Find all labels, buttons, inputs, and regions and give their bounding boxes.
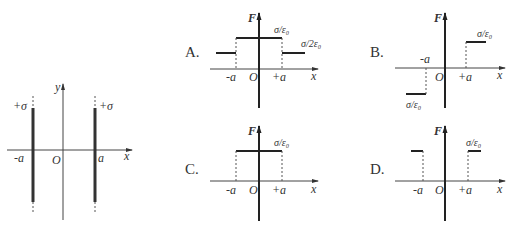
- option-c-x-label: x: [310, 182, 317, 196]
- option-b-f-label: F: [433, 11, 442, 25]
- option-b-x-label: x: [496, 68, 503, 82]
- option-b-label-1: σ/ε₀: [477, 28, 493, 39]
- option-a-label-1: σ/ε₀: [274, 24, 290, 35]
- setup-y-label: y: [54, 80, 61, 94]
- left-plate-charge-label: +σ: [13, 99, 28, 113]
- option-d-origin: O: [435, 183, 444, 197]
- option-d-letter: D.: [370, 161, 385, 177]
- option-b-pos-tick: +a: [458, 70, 472, 84]
- option-b-origin: O: [435, 70, 444, 84]
- option-a-neg-tick: -a: [226, 70, 236, 84]
- option-c-label-1: σ/ε₀: [274, 137, 290, 148]
- option-b-label-2: σ/ε₀: [406, 99, 422, 110]
- left-plate-pos-label: -a: [14, 151, 24, 165]
- option-a-label-2: σ/2ε₀: [301, 38, 322, 49]
- option-d-graph: D. F σ/ε₀ -a O +a x: [370, 124, 505, 221]
- option-d-label-1: σ/ε₀: [466, 137, 482, 148]
- option-c-f-label: F: [247, 124, 256, 138]
- option-c-origin: O: [249, 183, 258, 197]
- option-d-f-label: F: [433, 124, 442, 138]
- option-b-graph: B. F σ/ε₀ σ/ε₀ -a O +a x: [370, 11, 505, 110]
- option-d-x-label: x: [496, 182, 503, 196]
- setup-x-label: x: [123, 149, 130, 163]
- option-a-f-label: F: [247, 11, 256, 25]
- option-a-origin: O: [249, 70, 258, 84]
- right-plate-pos-label: a: [98, 151, 104, 165]
- option-b-neg-tick: -a: [420, 52, 430, 66]
- option-a-graph: A. F σ/ε₀ σ/2ε₀ -a O +a x: [185, 11, 322, 108]
- option-c-letter: C.: [185, 161, 199, 177]
- right-plate-charge-label: +σ: [99, 99, 114, 113]
- physics-figure: y x O -a a +σ +σ A. F σ/ε₀ σ/2ε₀ -a O +a…: [0, 0, 508, 236]
- option-c-graph: C. F σ/ε₀ -a O +a x: [185, 124, 318, 221]
- option-d-neg-tick: -a: [413, 183, 423, 197]
- option-c-neg-tick: -a: [226, 183, 236, 197]
- option-a-x-label: x: [310, 69, 317, 83]
- option-d-pos-tick: +a: [458, 183, 472, 197]
- option-a-letter: A.: [185, 44, 200, 60]
- option-a-pos-tick: +a: [272, 70, 286, 84]
- setup-origin-label: O: [52, 153, 61, 167]
- option-b-letter: B.: [370, 44, 384, 60]
- setup-diagram: y x O -a a +σ +σ: [7, 80, 132, 220]
- option-c-pos-tick: +a: [272, 183, 286, 197]
